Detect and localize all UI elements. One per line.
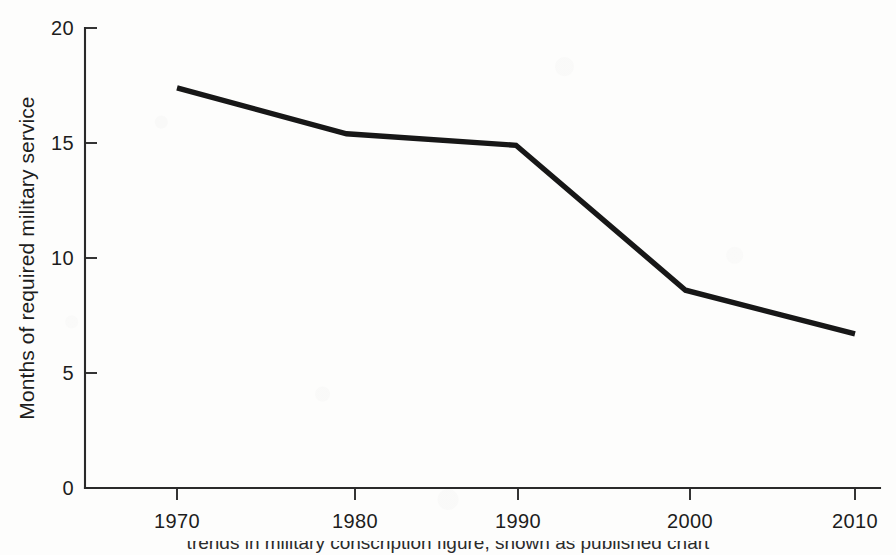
line-chart: Months of required military service 20 1… (0, 0, 896, 555)
chart-page: Months of required military service 20 1… (0, 0, 896, 555)
figure-caption: trends in military conscription figure, … (0, 541, 896, 555)
y-tick-label-15: 15 (51, 132, 74, 154)
y-tick-label-20: 20 (51, 17, 74, 39)
y-axis-title: Months of required military service (15, 96, 38, 419)
data-series-line (177, 88, 855, 334)
figure-caption-text: trends in military conscription figure, … (0, 541, 896, 554)
x-tick-label-1980: 1980 (332, 510, 378, 532)
x-tick-label-2000: 2000 (667, 510, 713, 532)
y-tick-label-5: 5 (62, 362, 74, 384)
x-tick-label-1970: 1970 (154, 510, 200, 532)
x-tick-label-1990: 1990 (495, 510, 541, 532)
x-tick-label-2010: 2010 (832, 510, 878, 532)
y-tick-label-10: 10 (51, 247, 74, 269)
y-tick-label-0: 0 (62, 477, 74, 499)
